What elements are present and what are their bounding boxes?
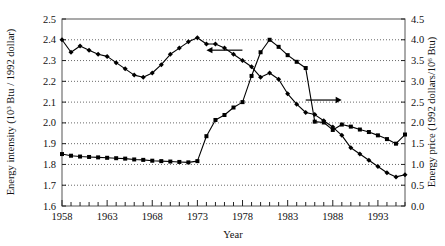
data-point-marker — [150, 159, 154, 163]
y2-tick-label: 2.0 — [411, 117, 424, 128]
y-tick-label: 1.9 — [43, 138, 56, 149]
data-point-marker — [268, 38, 272, 42]
y-tick-label: 2.1 — [43, 97, 56, 108]
y-tick-label: 1.6 — [43, 201, 56, 212]
data-point-marker — [123, 157, 127, 161]
data-point-marker — [313, 120, 317, 124]
data-point-marker — [222, 113, 226, 117]
data-point-marker — [259, 50, 263, 54]
y2-tick-label: 3.5 — [411, 55, 424, 66]
energy-intensity-price-chart: 1.61.71.81.92.02.12.22.32.42.5 0.00.51.0… — [0, 0, 445, 246]
x-tick-label: 1988 — [322, 211, 343, 222]
chart-canvas: 1.61.71.81.92.02.12.22.32.42.5 0.00.51.0… — [0, 0, 445, 246]
data-point-marker — [322, 120, 326, 124]
data-point-marker — [394, 142, 398, 146]
x-tick-label: 1958 — [52, 211, 73, 222]
data-point-marker — [295, 60, 299, 64]
data-point-marker — [204, 134, 208, 138]
data-point-marker — [87, 155, 91, 159]
data-point-marker — [232, 106, 236, 110]
data-point-marker — [340, 123, 344, 127]
data-point-marker — [186, 160, 190, 164]
data-point-marker — [114, 156, 118, 160]
y2-tick-label: 0.0 — [411, 201, 424, 212]
x-tick-label: 1978 — [232, 211, 253, 222]
y-tick-label: 2.5 — [43, 14, 56, 25]
x-tick-label: 1983 — [277, 211, 298, 222]
data-point-marker — [403, 133, 407, 137]
x-tick-label: 1993 — [367, 211, 388, 222]
data-point-marker — [168, 160, 172, 164]
y-tick-label: 1.7 — [43, 180, 56, 191]
data-point-marker — [286, 53, 290, 57]
y2-tick-label: 1.0 — [411, 159, 424, 170]
data-point-marker — [195, 159, 199, 163]
data-point-marker — [177, 160, 181, 164]
data-point-marker — [367, 130, 371, 134]
data-point-marker — [358, 128, 362, 132]
data-point-marker — [376, 133, 380, 137]
data-point-marker — [241, 100, 245, 104]
y2-tick-label: 4.5 — [411, 14, 424, 25]
data-point-marker — [105, 156, 109, 160]
data-point-marker — [349, 125, 353, 129]
data-point-marker — [331, 128, 335, 132]
x-axis-title: Year — [223, 229, 243, 240]
data-point-marker — [141, 158, 145, 162]
data-point-marker — [132, 157, 136, 161]
data-point-marker — [304, 66, 308, 70]
x-tick-label: 1963 — [97, 211, 118, 222]
x-tick-label: 1973 — [187, 211, 208, 222]
data-point-marker — [69, 154, 73, 158]
y2-tick-label: 1.5 — [411, 138, 424, 149]
y-axis-title: Energy intensity (103 Btu / 1992 dollar) — [5, 28, 17, 195]
y-tick-label: 2.4 — [43, 34, 57, 45]
data-point-marker — [96, 155, 100, 159]
y-tick-label: 1.8 — [43, 159, 56, 170]
data-point-marker — [60, 152, 64, 156]
y2-tick-label: 3.0 — [411, 76, 424, 87]
data-point-marker — [277, 45, 281, 49]
y-tick-label: 2.2 — [43, 76, 56, 87]
y-tick-label: 2.3 — [43, 55, 56, 66]
y2-tick-label: 4.0 — [411, 34, 424, 45]
data-point-marker — [385, 137, 389, 141]
y2-tick-label: 0.5 — [411, 180, 424, 191]
chart-background — [0, 0, 445, 246]
y2-axis-title: Energy price (1992 dollars/106 Btu) — [426, 36, 438, 187]
data-point-marker — [250, 74, 254, 78]
data-point-marker — [213, 118, 217, 122]
data-point-marker — [78, 155, 82, 159]
data-point-marker — [159, 159, 163, 163]
y-tick-label: 2.0 — [43, 117, 56, 128]
x-tick-label: 1968 — [142, 211, 163, 222]
y2-tick-label: 2.5 — [411, 97, 424, 108]
